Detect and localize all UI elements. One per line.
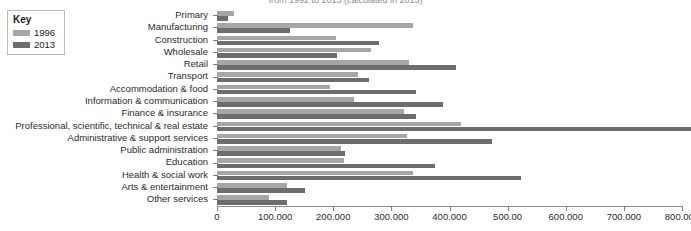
x-axis-tick-label: 0 bbox=[214, 211, 219, 222]
bar-1996 bbox=[217, 72, 358, 77]
category-label: Finance & insurance bbox=[0, 107, 212, 119]
bar-group bbox=[217, 95, 682, 107]
bar-1996 bbox=[217, 134, 407, 139]
bar-2013 bbox=[217, 200, 287, 205]
category-tick bbox=[213, 77, 218, 78]
bar-2013 bbox=[217, 41, 379, 46]
x-axis-tick bbox=[275, 207, 276, 211]
category-label: Health & social work bbox=[0, 169, 212, 181]
bar-1996 bbox=[217, 171, 413, 176]
category-label: Education bbox=[0, 156, 212, 168]
category-label: Administrative & support services bbox=[0, 132, 212, 144]
x-axis-tick-label: 700.000 bbox=[607, 211, 641, 222]
category-tick bbox=[213, 64, 218, 65]
category-label: Construction bbox=[0, 34, 212, 46]
x-axis-tick-label: 600.000 bbox=[549, 211, 583, 222]
category-tick bbox=[213, 199, 218, 200]
bar-2013 bbox=[217, 176, 521, 181]
category-label: Manufacturing bbox=[0, 21, 212, 33]
category-label: Professional, scientific, technical & re… bbox=[0, 120, 212, 132]
bar-2013 bbox=[217, 139, 492, 144]
bar-group bbox=[217, 21, 682, 33]
category-tick bbox=[213, 89, 218, 90]
bar-group bbox=[217, 34, 682, 46]
bar-1996 bbox=[217, 122, 461, 127]
bar-1996 bbox=[217, 48, 371, 53]
category-label: Transport bbox=[0, 70, 212, 82]
bar-chart: from 1992 to 2013 (calculated in 2013) K… bbox=[0, 0, 691, 231]
bar-2013 bbox=[217, 188, 305, 193]
category-tick bbox=[213, 163, 218, 164]
x-axis-tick-label: 100.000 bbox=[258, 211, 292, 222]
category-tick bbox=[213, 175, 218, 176]
bar-2013 bbox=[217, 127, 691, 132]
x-axis-tick bbox=[391, 207, 392, 211]
bar-group bbox=[217, 169, 682, 181]
category-label: Arts & entertainment bbox=[0, 181, 212, 193]
bar-group bbox=[217, 46, 682, 58]
bar-1996 bbox=[217, 85, 330, 90]
category-label: Other services bbox=[0, 193, 212, 205]
bar-2013 bbox=[217, 102, 443, 107]
x-axis-tick bbox=[624, 207, 625, 211]
x-axis-tick bbox=[566, 207, 567, 211]
x-axis-tick bbox=[682, 207, 683, 211]
category-tick bbox=[213, 126, 218, 127]
category-tick bbox=[213, 113, 218, 114]
category-tick bbox=[213, 40, 218, 41]
bar-2013 bbox=[217, 16, 228, 21]
bar-group bbox=[217, 83, 682, 95]
bar-1996 bbox=[217, 23, 413, 28]
x-axis-tick-label: 200.000 bbox=[316, 211, 350, 222]
bar-group bbox=[217, 193, 682, 205]
category-tick bbox=[213, 52, 218, 53]
category-label: Information & communication bbox=[0, 95, 212, 107]
category-label: Wholesale bbox=[0, 46, 212, 58]
bar-1996 bbox=[217, 11, 234, 16]
bar-1996 bbox=[217, 183, 287, 188]
bar-2013 bbox=[217, 53, 337, 58]
category-tick bbox=[213, 101, 218, 102]
bar-group bbox=[217, 107, 682, 119]
x-axis-tick-label: 800.000 bbox=[665, 211, 691, 222]
x-axis-tick bbox=[450, 207, 451, 211]
category-label: Retail bbox=[0, 58, 212, 70]
x-axis-tick bbox=[333, 207, 334, 211]
category-tick bbox=[213, 150, 218, 151]
category-label: Primary bbox=[0, 9, 212, 21]
bar-1996 bbox=[217, 109, 404, 114]
category-label: Accommodation & food bbox=[0, 83, 212, 95]
bar-1996 bbox=[217, 36, 336, 41]
bar-1996 bbox=[217, 195, 269, 200]
category-tick bbox=[213, 187, 218, 188]
bar-group bbox=[217, 132, 682, 144]
x-axis-tick bbox=[217, 207, 218, 211]
category-label: Public administration bbox=[0, 144, 212, 156]
x-axis-tick-label: 300.000 bbox=[374, 211, 408, 222]
x-axis-tick-label: 400.000 bbox=[432, 211, 466, 222]
bar-2013 bbox=[217, 78, 369, 83]
x-axis-tick bbox=[508, 207, 509, 211]
bar-1996 bbox=[217, 158, 344, 163]
bar-2013 bbox=[217, 164, 435, 169]
bar-2013 bbox=[217, 90, 416, 95]
bar-1996 bbox=[217, 146, 341, 151]
bar-group bbox=[217, 144, 682, 156]
chart-subtitle: from 1992 to 2013 (calculated in 2013) bbox=[0, 0, 691, 5]
bar-1996 bbox=[217, 97, 354, 102]
x-axis-tick-label: 500.00 bbox=[493, 211, 522, 222]
bar-group bbox=[217, 70, 682, 82]
bar-group bbox=[217, 156, 682, 168]
bar-1996 bbox=[217, 60, 409, 65]
plot-area bbox=[217, 9, 682, 206]
category-axis-labels: PrimaryManufacturingConstructionWholesal… bbox=[0, 9, 212, 206]
category-tick bbox=[213, 27, 218, 28]
bar-2013 bbox=[217, 151, 345, 156]
bar-group bbox=[217, 58, 682, 70]
bar-group bbox=[217, 120, 682, 132]
category-tick bbox=[213, 15, 218, 16]
category-tick bbox=[213, 138, 218, 139]
bar-2013 bbox=[217, 114, 416, 119]
bar-2013 bbox=[217, 65, 456, 70]
bar-group bbox=[217, 9, 682, 21]
